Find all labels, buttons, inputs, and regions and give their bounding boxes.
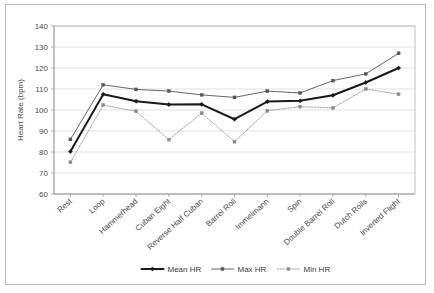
data-point-min-hr	[69, 161, 72, 164]
legend-label-min-hr: Min HR	[304, 265, 331, 274]
y-tick-label: 70	[39, 169, 48, 178]
data-point-min-hr	[331, 106, 334, 109]
legend-label-max-hr: Max HR	[238, 265, 267, 274]
y-tick-labels-group: 60708090100110120130140	[35, 22, 54, 199]
data-series-group	[68, 52, 400, 164]
data-point-min-hr	[135, 110, 138, 113]
y-axis-title: Heart Rate (bpm)	[16, 79, 25, 141]
data-point-min-hr	[397, 93, 400, 96]
heart-rate-line-chart: 60708090100110120130140 Heart Rate (bpm)…	[6, 5, 427, 286]
data-point-max-hr	[233, 96, 236, 99]
y-tick-label: 90	[39, 127, 48, 136]
data-point-max-hr	[397, 52, 400, 55]
x-tick-label: Rest	[55, 196, 74, 214]
data-point-mean-hr	[298, 99, 302, 103]
data-point-min-hr	[167, 138, 170, 141]
y-tick-label: 110	[35, 85, 48, 94]
legend-label-mean-hr: Mean HR	[168, 265, 202, 274]
y-axis-title-group: Heart Rate (bpm)	[16, 79, 25, 141]
y-tick-label: 120	[35, 64, 49, 73]
data-point-max-hr	[299, 91, 302, 94]
data-point-min-hr	[299, 105, 302, 108]
gridlines-group	[54, 26, 415, 194]
data-point-min-hr	[200, 112, 203, 115]
data-point-min-hr	[266, 109, 269, 112]
legend-marker-mean-hr	[150, 267, 154, 271]
data-point-max-hr	[364, 72, 367, 75]
data-point-min-hr	[233, 140, 236, 143]
chart-plot-area: 60708090100110120130140 Heart Rate (bpm)…	[6, 5, 427, 286]
data-point-max-hr	[331, 79, 334, 82]
legend-marker-min-hr	[287, 268, 290, 271]
y-tick-label: 100	[35, 106, 49, 115]
data-point-min-hr	[102, 103, 105, 106]
y-tick-label: 80	[39, 148, 48, 157]
y-tick-label: 60	[39, 190, 48, 199]
data-point-max-hr	[69, 138, 72, 141]
data-point-min-hr	[364, 88, 367, 91]
data-point-max-hr	[135, 88, 138, 91]
x-tick-labels-group: RestLoopHammerheadCuban EightReverse Hal…	[55, 194, 402, 252]
chart-frame: 60708090100110120130140 Heart Rate (bpm)…	[5, 4, 426, 285]
x-tick-label: Barrel Roll	[204, 197, 238, 229]
series-line-min-hr	[70, 89, 398, 162]
y-tick-label: 140	[35, 22, 49, 31]
x-tick-label: Spin	[286, 197, 304, 214]
data-point-mean-hr	[134, 99, 138, 103]
data-point-max-hr	[167, 90, 170, 93]
x-tick-label: Reverse Half Cuban	[145, 197, 205, 252]
data-point-mean-hr	[167, 102, 171, 106]
legend-marker-max-hr	[221, 268, 224, 271]
x-tick-label: Immelmann	[234, 197, 271, 232]
chart-legend: Mean HRMax HRMin HR	[142, 265, 331, 274]
data-point-max-hr	[102, 83, 105, 86]
x-tick-label: Loop	[87, 196, 107, 215]
data-point-max-hr	[200, 93, 203, 96]
data-point-max-hr	[266, 90, 269, 93]
y-tick-label: 130	[35, 43, 49, 52]
